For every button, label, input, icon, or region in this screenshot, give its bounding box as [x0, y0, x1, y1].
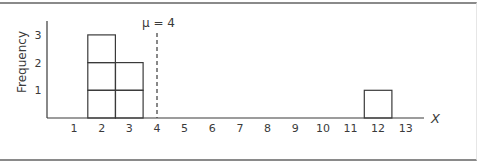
x-axis-label: X	[430, 111, 441, 126]
x-tick-label: 11	[344, 122, 358, 135]
y-tick-label: 3	[35, 29, 42, 42]
histogram-box	[364, 90, 392, 118]
x-tick-label: 8	[264, 122, 271, 135]
mean-label: μ = 4	[142, 16, 175, 30]
histogram-chart: 123 12345678910111213 μ = 4 Frequency X	[0, 0, 479, 164]
histogram-box	[88, 90, 116, 118]
histogram-box	[116, 90, 144, 118]
x-tick-label: 6	[209, 122, 216, 135]
y-tick-label: 1	[35, 84, 42, 97]
x-tick-label: 3	[126, 122, 133, 135]
x-tick-label: 1	[71, 122, 78, 135]
histogram-box	[88, 63, 116, 91]
x-tick-label: 4	[153, 122, 160, 135]
x-tick-labels: 12345678910111213	[71, 122, 413, 135]
histogram-bars	[88, 35, 392, 118]
histogram-box	[88, 35, 116, 63]
x-tick-label: 13	[399, 122, 413, 135]
x-tick-label: 9	[292, 122, 299, 135]
x-tick-label: 2	[98, 122, 105, 135]
x-tick-label: 12	[371, 122, 385, 135]
y-axis-label: Frequency	[15, 31, 29, 93]
x-tick-label: 10	[316, 122, 330, 135]
y-tick-labels: 123	[35, 29, 42, 97]
x-tick-label: 5	[181, 122, 188, 135]
x-tick-label: 7	[236, 122, 243, 135]
histogram-box	[116, 63, 144, 91]
y-tick-label: 2	[35, 57, 42, 70]
